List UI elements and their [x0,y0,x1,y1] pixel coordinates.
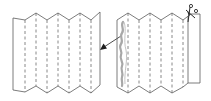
left-strip-outline [13,12,100,93]
accordion-folded-strip [13,12,100,93]
diagram-canvas [0,0,211,101]
arrow-left-down-icon [100,36,121,50]
folding-diagram [0,0,211,101]
cut-outline-inner [124,22,127,84]
cut-outline-shape [120,22,123,86]
strip-with-cut-outline [117,4,200,93]
right-strip-outline [117,13,200,93]
